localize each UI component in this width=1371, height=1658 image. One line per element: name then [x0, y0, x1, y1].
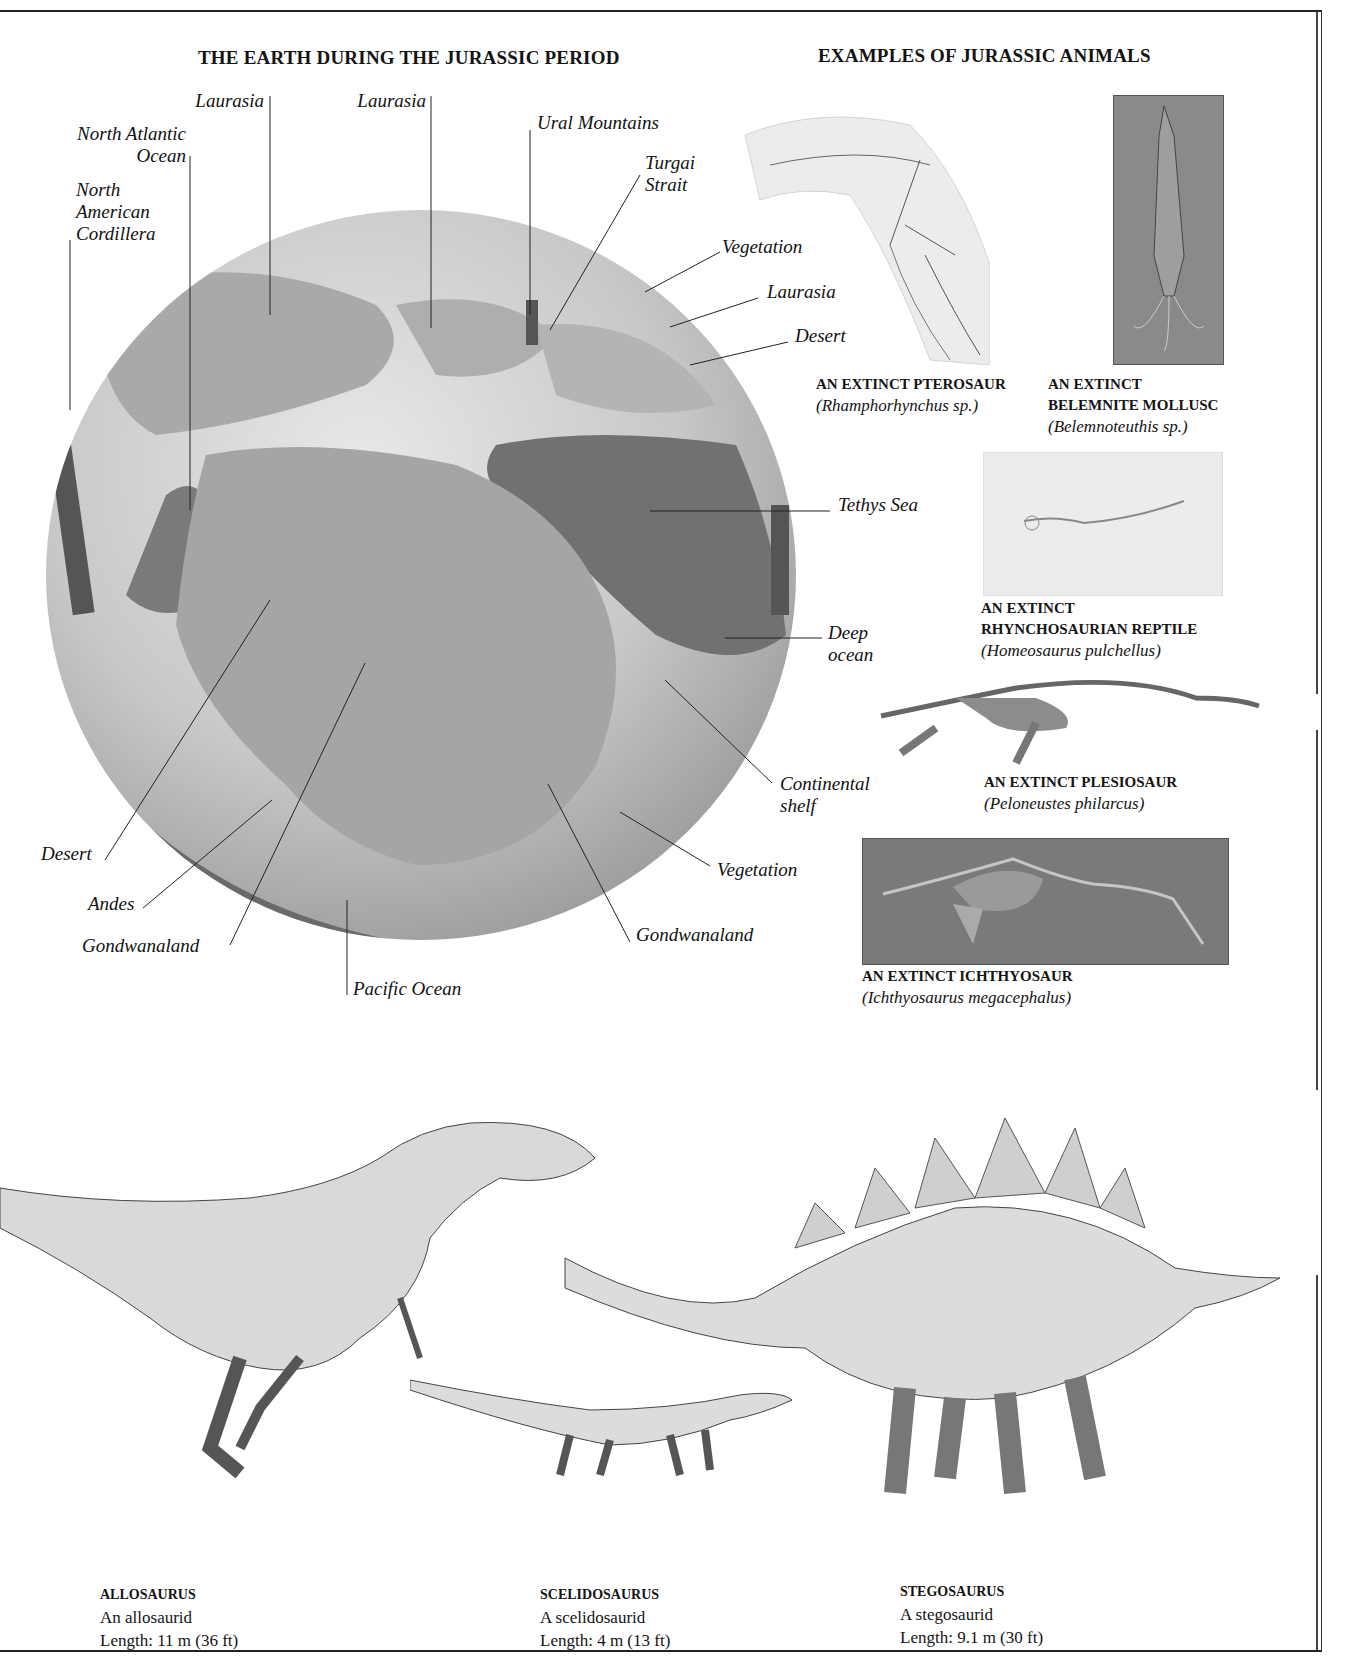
- scelidosaurus-illustration: [410, 1370, 795, 1480]
- caption-ichthyosaur-title: AN EXTINCT ICHTHYOSAUR: [862, 966, 1073, 987]
- caption-rhynchosaurian-species: (Homeosaurus pulchellus): [981, 640, 1197, 661]
- allosaurus-name: ALLOSAURUS: [100, 1583, 238, 1606]
- right-margin-rule-top: [1316, 12, 1318, 694]
- label-laurasia-1: Laurasia: [178, 90, 264, 112]
- allosaurus-family: An allosaurid: [100, 1606, 238, 1629]
- caption-belemnite: AN EXTINCT BELEMNITE MOLLUSC (Belemnoteu…: [1048, 374, 1218, 437]
- plesiosaur-fossil-image: [876, 668, 1261, 768]
- label-gondwanaland-1: Gondwanaland: [82, 935, 199, 957]
- label-ural-mountains: Ural Mountains: [537, 112, 659, 134]
- label-north-atlantic-ocean: North Atlantic Ocean: [58, 123, 186, 167]
- caption-pterosaur: AN EXTINCT PTEROSAUR (Rhamphorhynchus sp…: [816, 374, 1006, 416]
- caption-plesiosaur-species: (Peloneustes philarcus): [984, 793, 1177, 814]
- jurassic-globe-illustration: [36, 205, 806, 945]
- caption-rhynchosaurian: AN EXTINCT RHYNCHOSAURIAN REPTILE (Homeo…: [981, 598, 1197, 661]
- allosaurus-length: Length: 11 m (36 ft): [100, 1629, 238, 1652]
- pterosaur-fossil-image: [740, 105, 990, 365]
- caption-plesiosaur: AN EXTINCT PLESIOSAUR (Peloneustes phila…: [984, 772, 1177, 814]
- caption-allosaurus: ALLOSAURUS An allosaurid Length: 11 m (3…: [100, 1583, 238, 1652]
- caption-belemnite-title: AN EXTINCT BELEMNITE MOLLUSC: [1048, 374, 1218, 416]
- label-pacific-ocean: Pacific Ocean: [353, 978, 461, 1000]
- caption-plesiosaur-title: AN EXTINCT PLESIOSAUR: [984, 772, 1177, 793]
- belemnite-fossil-image: [1113, 95, 1224, 365]
- stegosaurus-length: Length: 9.1 m (30 ft): [900, 1626, 1043, 1649]
- scelidosaurus-family: A scelidosaurid: [540, 1606, 670, 1629]
- right-margin-rule-mid: [1316, 730, 1318, 1090]
- animals-heading: EXAMPLES OF JURASSIC ANIMALS: [818, 45, 1151, 67]
- stegosaurus-name: STEGOSAURUS: [900, 1580, 1043, 1603]
- right-margin-rule-bottom: [1316, 1275, 1318, 1650]
- label-vegetation-2: Vegetation: [717, 859, 797, 881]
- label-tethys-sea: Tethys Sea: [838, 494, 918, 516]
- caption-scelidosaurus: SCELIDOSAURUS A scelidosaurid Length: 4 …: [540, 1583, 670, 1652]
- scelidosaurus-length: Length: 4 m (13 ft): [540, 1629, 670, 1652]
- label-continental-shelf: Continental shelf: [780, 773, 870, 817]
- label-andes: Andes: [88, 893, 134, 915]
- label-gondwanaland-2: Gondwanaland: [636, 924, 753, 946]
- label-north-american-cordillera: North American Cordillera: [76, 179, 156, 245]
- globe-heading: THE EARTH DURING THE JURASSIC PERIOD: [198, 47, 620, 69]
- label-laurasia-2: Laurasia: [338, 90, 426, 112]
- scelidosaurus-name: SCELIDOSAURUS: [540, 1583, 670, 1606]
- rhynchosaurian-fossil-image: [983, 452, 1223, 596]
- caption-ichthyosaur: AN EXTINCT ICHTHYOSAUR (Ichthyosaurus me…: [862, 966, 1073, 1008]
- caption-pterosaur-species: (Rhamphorhynchus sp.): [816, 395, 1006, 416]
- caption-rhynchosaurian-title: AN EXTINCT RHYNCHOSAURIAN REPTILE: [981, 598, 1197, 640]
- label-desert-2: Desert: [41, 843, 92, 865]
- caption-belemnite-species: (Belemnoteuthis sp.): [1048, 416, 1218, 437]
- caption-pterosaur-title: AN EXTINCT PTEROSAUR: [816, 374, 1006, 395]
- stegosaurus-family: A stegosaurid: [900, 1603, 1043, 1626]
- label-turgai-strait: Turgai Strait: [645, 152, 695, 196]
- ichthyosaur-fossil-image: [862, 838, 1229, 965]
- caption-stegosaurus: STEGOSAURUS A stegosaurid Length: 9.1 m …: [900, 1580, 1043, 1649]
- label-deep-ocean: Deep ocean: [828, 622, 873, 666]
- caption-ichthyosaur-species: (Ichthyosaurus megacephalus): [862, 987, 1073, 1008]
